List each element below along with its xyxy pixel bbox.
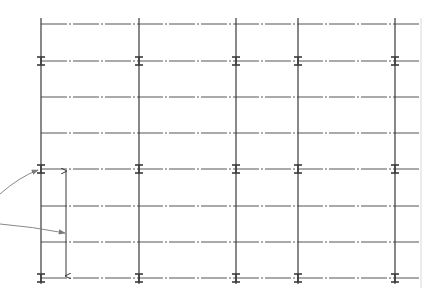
leader-to-dimension-arrow-icon <box>0 224 65 233</box>
floor-lines <box>41 24 420 278</box>
columns <box>41 18 395 284</box>
grid-drawing <box>0 0 433 297</box>
structural-grid-diagram <box>0 0 433 297</box>
leader-arrows <box>0 170 65 233</box>
leader-to-beam-arrow-icon <box>0 170 38 194</box>
